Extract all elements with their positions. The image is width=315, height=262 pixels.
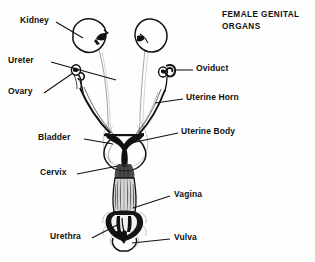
label-uterine-body: Uterine Body [181, 127, 235, 136]
vagina-illustration [113, 178, 136, 212]
label-ureter: Ureter [8, 56, 34, 65]
leader-line-vulva [132, 239, 170, 243]
leader-line-uterine-horn [155, 99, 183, 103]
uterine-horn-illustration [80, 87, 165, 134]
right-kidney-illustration [135, 19, 167, 52]
vulva-illustration [103, 211, 146, 252]
label-vulva: Vulva [174, 233, 197, 242]
anatomical-diagram [0, 0, 315, 262]
right-oviduct-illustration [165, 65, 175, 91]
label-kidney: Kidney [20, 16, 49, 25]
diagram-page: FEMALE GENITAL ORGANS Kidney Ureter Ovar… [0, 0, 315, 262]
leader-line-ovary [44, 73, 73, 93]
label-vagina: Vagina [174, 190, 202, 199]
figure-title-line-1: FEMALE GENITAL [222, 9, 300, 21]
label-cervix: Cervix [40, 168, 67, 177]
figure-title: FEMALE GENITAL ORGANS [222, 9, 300, 33]
leader-line-kidney [56, 22, 83, 38]
label-urethra: Urethra [50, 232, 81, 241]
figure-title-line-2: ORGANS [222, 21, 300, 33]
leader-line-cervix [77, 166, 118, 174]
label-oviduct: Oviduct [196, 64, 228, 73]
label-ovary: Ovary [8, 87, 33, 96]
label-bladder: Bladder [38, 133, 70, 142]
leader-line-vagina [133, 196, 170, 208]
label-uterine-horn: Uterine Horn [186, 93, 239, 102]
